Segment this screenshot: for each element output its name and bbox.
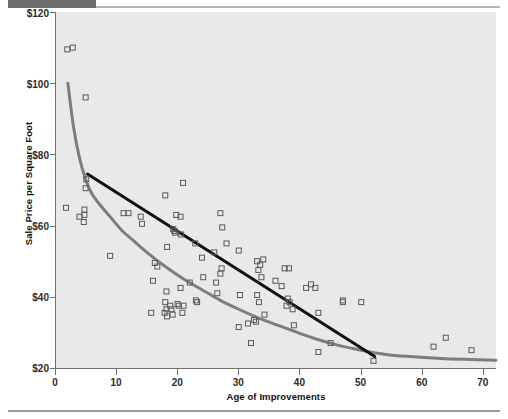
scatter-point	[443, 335, 448, 340]
scatter-point	[253, 319, 258, 324]
scatter-point	[163, 193, 168, 198]
scatter-point	[469, 348, 474, 353]
scatter-point	[219, 266, 224, 271]
scatter-point	[249, 341, 254, 346]
scatter-point	[151, 278, 156, 283]
curve-linear-trend	[87, 174, 374, 357]
scatter-point	[70, 45, 75, 50]
scatter-point	[255, 293, 260, 298]
scatter-point	[181, 303, 186, 308]
scatter-point	[340, 300, 345, 305]
scatter-point	[304, 285, 309, 290]
scatter-point	[81, 220, 86, 225]
scatter-point	[163, 300, 168, 305]
data-layer	[0, 0, 508, 419]
scatter-point	[181, 180, 186, 185]
scatter-point	[236, 248, 241, 253]
scatter-point	[65, 47, 70, 52]
scatter-point	[139, 221, 144, 226]
scatter-point	[164, 289, 169, 294]
scatter-point	[262, 312, 267, 317]
scatter-point	[214, 280, 219, 285]
scatter-point	[259, 275, 264, 280]
scatter-point	[218, 211, 223, 216]
scatter-point	[126, 211, 131, 216]
scatter-point	[164, 307, 169, 312]
scatter-point	[245, 321, 250, 326]
scatter-point	[279, 284, 284, 289]
scatter-point	[64, 205, 69, 210]
scatter-point	[121, 211, 126, 216]
scatter-point	[258, 262, 263, 267]
scatter-point	[340, 298, 345, 303]
scatter-point	[237, 293, 242, 298]
scatter-point	[201, 275, 206, 280]
scatter-point	[170, 312, 175, 317]
scatter-point	[83, 95, 88, 100]
scatter-point	[261, 257, 266, 262]
scatter-point	[108, 253, 113, 258]
chart-figure: $120 $100 $80 $60 $40 $20 0 10 20 30 40 …	[0, 0, 508, 419]
scatter-point	[165, 244, 170, 249]
scatter-point	[256, 268, 261, 273]
scatter-point	[180, 310, 185, 315]
scatter-point	[359, 300, 364, 305]
scatter-point	[236, 325, 241, 330]
scatter-points	[64, 45, 474, 363]
scatter-point	[371, 358, 376, 363]
curve-power-curve	[68, 83, 496, 360]
scatter-point	[316, 310, 321, 315]
scatter-point	[273, 278, 278, 283]
scatter-point	[138, 214, 143, 219]
scatter-point	[77, 214, 82, 219]
scatter-point	[149, 310, 154, 315]
scatter-point	[255, 259, 260, 264]
scatter-point	[218, 271, 223, 276]
scatter-point	[224, 241, 229, 246]
scatter-point	[82, 207, 87, 212]
scatter-point	[82, 212, 87, 217]
scatter-point	[215, 291, 220, 296]
scatter-point	[200, 255, 205, 260]
scatter-point	[220, 225, 225, 230]
scatter-point	[316, 349, 321, 354]
scatter-point	[431, 344, 436, 349]
scatter-point	[178, 285, 183, 290]
footer-rule	[8, 410, 500, 412]
scatter-point	[284, 303, 289, 308]
scatter-point	[290, 307, 295, 312]
trend-curves	[68, 83, 496, 360]
scatter-point	[256, 300, 261, 305]
scatter-point	[291, 323, 296, 328]
